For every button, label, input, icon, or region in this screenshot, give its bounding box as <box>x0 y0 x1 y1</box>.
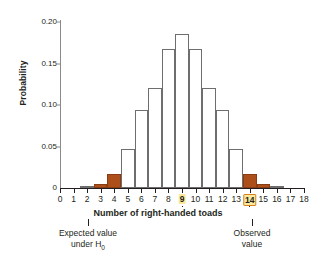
y-axis-tick-mark <box>56 146 60 147</box>
expected-value-line2: under H0 <box>71 239 105 249</box>
expected-value-note: Expected value under H0 <box>30 228 146 253</box>
observed-value-line1: Observed <box>234 228 271 238</box>
x-axis-tick-label: 15 <box>259 194 268 204</box>
x-axis-tick-label: 13 <box>231 194 240 204</box>
y-axis-title: Probability <box>18 38 28 128</box>
x-axis-tick-label-highlighted: 14 <box>243 194 256 206</box>
x-axis-tick-mark <box>182 188 183 193</box>
histogram-bar <box>121 149 135 188</box>
chart-figure: Probability 00.050.100.150.20 Number of … <box>0 0 316 260</box>
x-axis-tick-mark <box>304 188 305 193</box>
histogram-bar <box>107 174 121 188</box>
histogram-bar <box>135 110 149 188</box>
x-axis-tick-label: 18 <box>299 194 308 204</box>
y-axis-tick-label: 0.20 <box>41 18 57 26</box>
histogram-bar <box>189 49 203 188</box>
x-axis-tick-label: 0 <box>58 194 63 204</box>
x-axis-tick-label: 17 <box>286 194 295 204</box>
y-axis-tick-label: 0.10 <box>41 101 57 109</box>
x-axis-tick-mark <box>141 188 142 193</box>
x-axis-tick-mark <box>168 188 169 193</box>
x-axis-tick-label-highlighted: 9 <box>179 194 186 204</box>
y-axis-tick-mark <box>56 22 60 23</box>
y-axis-tick-mark <box>56 63 60 64</box>
x-axis-tick-label: 8 <box>166 194 171 204</box>
expected-value-subscript: 0 <box>101 244 105 251</box>
observed-value-line2: value <box>242 239 262 249</box>
x-axis-tick-mark <box>277 188 278 193</box>
y-axis-tick-mark <box>56 105 60 106</box>
x-axis-tick-mark <box>74 188 75 193</box>
x-axis-tick-mark <box>209 188 210 193</box>
histogram-bar <box>175 34 189 188</box>
x-axis-tick-label: 6 <box>139 194 144 204</box>
x-axis-tick-label: 11 <box>205 194 214 204</box>
x-axis-tick-mark <box>196 188 197 193</box>
x-axis-tick-mark <box>60 188 61 193</box>
histogram-bar <box>216 110 230 188</box>
y-axis-tick-label: 0.05 <box>41 143 57 151</box>
x-axis-tick-mark <box>128 188 129 193</box>
x-axis-tick-label: 10 <box>191 194 200 204</box>
x-axis-tick-mark <box>236 188 237 193</box>
x-axis-tick-mark <box>263 188 264 193</box>
x-axis-tick-mark <box>155 188 156 193</box>
x-axis-tick-mark <box>250 188 251 193</box>
x-axis-caption: Number of right-handed toads <box>0 207 316 219</box>
x-axis-tick-label: 3 <box>98 194 103 204</box>
y-axis-tick-label: 0 <box>53 184 57 192</box>
x-axis-tick-mark <box>114 188 115 193</box>
x-axis-tick-label: 7 <box>153 194 158 204</box>
histogram-bar <box>243 174 257 188</box>
x-axis-tick-mark <box>223 188 224 193</box>
histogram-bar <box>148 88 162 188</box>
x-axis-tick-label: 2 <box>85 194 90 204</box>
x-axis-tick-mark <box>87 188 88 193</box>
x-axis-tick-label: 4 <box>112 194 117 204</box>
x-axis-tick-mark <box>290 188 291 193</box>
observed-value-note: Observed value <box>212 228 292 250</box>
expected-value-h-text: under H <box>71 239 101 249</box>
x-axis-tick-label: 1 <box>71 194 76 204</box>
expected-value-line1: Expected value <box>59 228 117 238</box>
histogram-bar <box>162 49 176 188</box>
x-axis-tick-mark <box>101 188 102 193</box>
x-axis-tick-label: 16 <box>272 194 281 204</box>
y-axis-tick-label: 0.15 <box>41 60 57 68</box>
x-axis-tick-label: 5 <box>125 194 130 204</box>
histogram-bar <box>229 149 243 188</box>
x-axis-tick-label: 12 <box>218 194 227 204</box>
plot-area: 00.050.100.150.20 <box>60 22 304 188</box>
histogram-bar <box>202 88 216 188</box>
